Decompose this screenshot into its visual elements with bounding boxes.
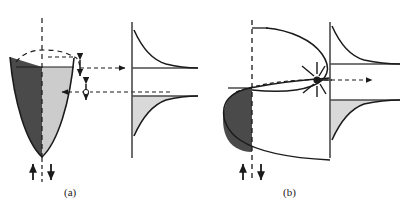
panel-b-subband-group [223, 20, 330, 182]
figure-canvas: (a) (b) [0, 0, 403, 204]
panel-a-lower-spin-node [83, 89, 88, 94]
panel-b-label: (b) [283, 186, 296, 198]
panel-a-dos-upper-curve [134, 30, 198, 68]
panel-a-well-group [10, 18, 74, 182]
diagram-svg [0, 0, 403, 204]
well-light-fill [42, 61, 74, 157]
panel-b-occupied-fill [223, 88, 252, 152]
panel-b-dos-upper-curve [332, 26, 400, 64]
panel-a-label: (a) [64, 186, 76, 198]
panel-b-dos-group [330, 22, 400, 158]
well-dark-fill [10, 57, 42, 157]
panel-a-upper-dashed-riser [74, 57, 80, 68]
panel-a-dos-group [132, 22, 198, 158]
panel-b-dos-lower-fill [331, 100, 400, 140]
panel-a-dos-lower-fill [133, 96, 198, 136]
well-upper-band-edge [16, 50, 74, 62]
